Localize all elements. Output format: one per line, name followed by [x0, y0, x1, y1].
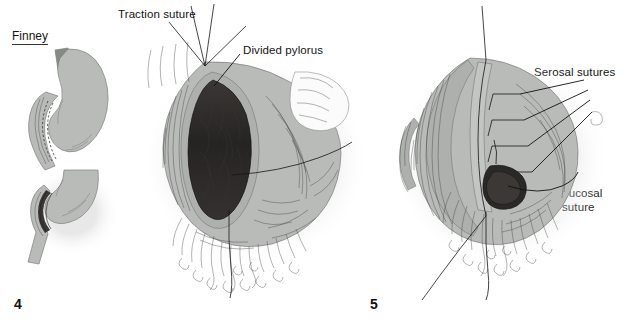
illustration-canvas: Finney Traction suture Divided pylorus S…: [0, 0, 625, 323]
panel-5-illustration: [390, 6, 610, 300]
illustration-vector: [0, 0, 625, 323]
inset-stomach-upper: [29, 48, 109, 170]
panel-4-illustration: [140, 4, 370, 298]
inset-anastomosis-lower: [24, 168, 120, 264]
